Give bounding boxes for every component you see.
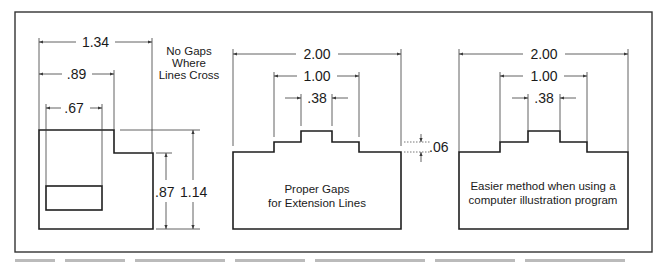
note-line-3: Lines Cross <box>159 69 220 81</box>
dim-38: .38 <box>307 90 327 106</box>
note-line-1: No Gaps <box>166 45 212 57</box>
dim-2-00: 2.00 <box>530 46 557 62</box>
dim-89: .89 <box>67 66 87 82</box>
clipped-caption-remnant <box>15 256 652 262</box>
panel-easier-method: 2.00 1.00 .38 Easier method when using a… <box>459 46 628 229</box>
caption-line-1: Easier method when using a <box>470 180 616 192</box>
dim-06: .06 <box>429 139 449 155</box>
dim-67: .67 <box>64 100 84 116</box>
dim-2-00: 2.00 <box>303 46 330 62</box>
caption-line-2: for Extension Lines <box>268 197 366 209</box>
dim-1-34: 1.34 <box>82 34 109 50</box>
dim-1-14: 1.14 <box>180 184 207 200</box>
panel-proper-gaps: 2.00 1.00 .38 .06 Proper Gaps for Extens… <box>233 46 449 229</box>
panel-no-gaps: 1.34 .89 .67 .87 1.14 No Gaps Where Line… <box>39 34 220 229</box>
dim-1-00: 1.00 <box>303 68 330 84</box>
dimensioning-figure: 1.34 .89 .67 .87 1.14 No Gaps Where Line… <box>0 0 664 262</box>
caption-line-1: Proper Gaps <box>284 183 349 195</box>
dim-87: .87 <box>155 184 175 200</box>
dim-38: .38 <box>534 90 554 106</box>
dim-1-00: 1.00 <box>530 68 557 84</box>
note-line-2: Where <box>172 57 206 69</box>
caption-line-2: computer illustration program <box>469 194 618 206</box>
